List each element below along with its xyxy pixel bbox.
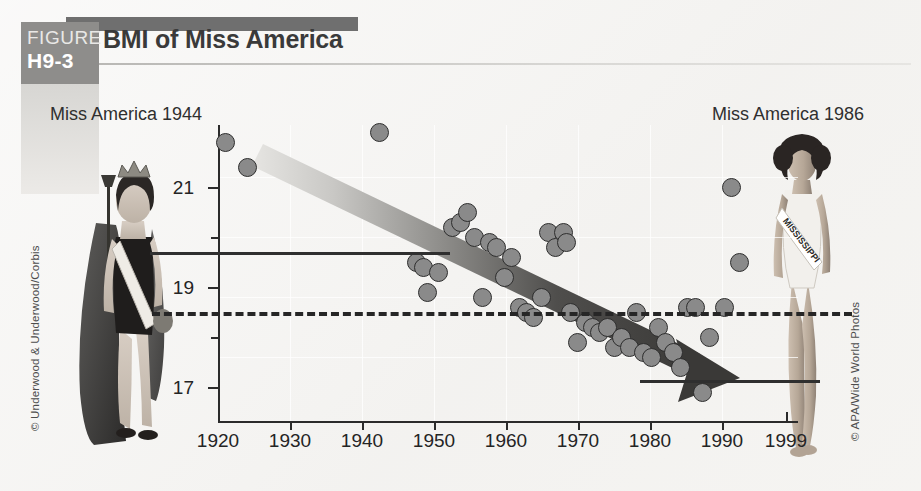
title-band: BMI of Miss America [99,25,921,58]
x-axis-label-1999: 1999 [756,430,816,452]
data-point [730,253,749,272]
data-point [429,263,448,282]
x-axis-label-1990: 1990 [692,430,752,452]
data-point [671,358,690,377]
data-point [557,233,576,252]
photo-caption-left: Miss America 1944 [50,104,202,125]
page-title: BMI of Miss America [103,25,343,54]
data-point [642,348,661,367]
y-axis-label-19: 19 [164,277,194,299]
data-point [524,308,543,327]
x-axis-label-1920: 1920 [188,430,248,452]
x-axis-label-1950: 1950 [404,430,464,452]
reference-line-1986 [640,380,820,383]
photo-caption-right: Miss America 1986 [712,104,864,125]
x-axis-label-1940: 1940 [332,430,392,452]
figure-badge-number: H9-3 [27,49,74,73]
figure-badge-word: FIGURE [27,27,102,49]
data-point [238,158,257,177]
x-axis-label-1980: 1980 [620,430,680,452]
data-points-layer [200,125,800,423]
figure-badge: FIGURE H9-3 [21,22,99,84]
data-point [458,203,477,222]
data-point [495,268,514,287]
data-point [693,383,712,402]
y-axis-label-17: 17 [164,377,194,399]
data-point [700,328,719,347]
x-axis-label-1970: 1970 [548,430,608,452]
x-axis-label-1960: 1960 [476,430,536,452]
data-point [722,178,741,197]
underweight-threshold-line [152,312,852,316]
data-point [370,123,389,142]
data-point [418,283,437,302]
data-point [216,133,235,152]
title-divider [99,63,911,65]
y-axis-label-21: 21 [164,177,194,199]
data-point [473,288,492,307]
data-point [568,333,587,352]
x-axis-label-1930: 1930 [260,430,320,452]
data-point [502,248,521,267]
credit-left: © Underwood & Underwood/Corbis [29,201,41,431]
reference-line-1944 [150,252,450,255]
data-point [532,288,551,307]
scatter-plot: 21 19 17 1920 1930 1940 1950 1960 1970 1… [200,125,800,430]
figure-page: FIGURE H9-3 BMI of Miss America © Underw… [0,0,921,491]
